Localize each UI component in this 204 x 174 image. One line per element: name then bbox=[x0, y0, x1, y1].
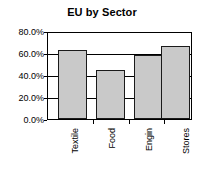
bar-engin bbox=[134, 55, 163, 119]
bar-food bbox=[96, 70, 125, 119]
x-label-stores: Stores bbox=[182, 128, 191, 154]
x-label-engin: Engin bbox=[145, 128, 154, 151]
y-tick-label-60: 60.0% bbox=[0, 50, 44, 59]
x-tick-mark-2 bbox=[129, 120, 130, 124]
y-tick-label-20: 20.0% bbox=[0, 94, 44, 103]
y-tick-mark-0 bbox=[44, 120, 47, 121]
y-tick-label-80: 80.0% bbox=[0, 28, 44, 37]
plot-area bbox=[47, 32, 192, 120]
bar-stores bbox=[161, 46, 190, 119]
x-label-textile: Textile bbox=[71, 128, 80, 154]
bar-textile bbox=[58, 50, 87, 119]
bar-chart: EU by Sector 80.0% 60.0% 40.0% 20.0% 0.0… bbox=[0, 0, 204, 174]
y-axis: 80.0% 60.0% 40.0% 20.0% 0.0% bbox=[0, 32, 44, 120]
x-tick-mark-1 bbox=[93, 120, 94, 124]
y-tick-label-0: 0.0% bbox=[0, 116, 44, 125]
y-tick-label-40: 40.0% bbox=[0, 72, 44, 81]
x-label-food: Food bbox=[108, 128, 117, 149]
x-tick-mark-3 bbox=[164, 120, 165, 124]
chart-title: EU by Sector bbox=[0, 6, 204, 18]
